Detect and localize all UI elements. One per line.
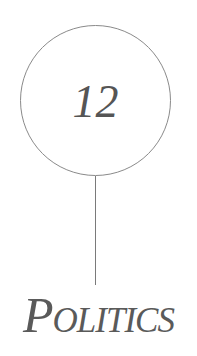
chapter-title: Politics <box>0 290 197 340</box>
connector-line <box>95 176 96 285</box>
chapter-number-circle: 12 <box>20 25 171 176</box>
chapter-number: 12 <box>21 26 170 175</box>
